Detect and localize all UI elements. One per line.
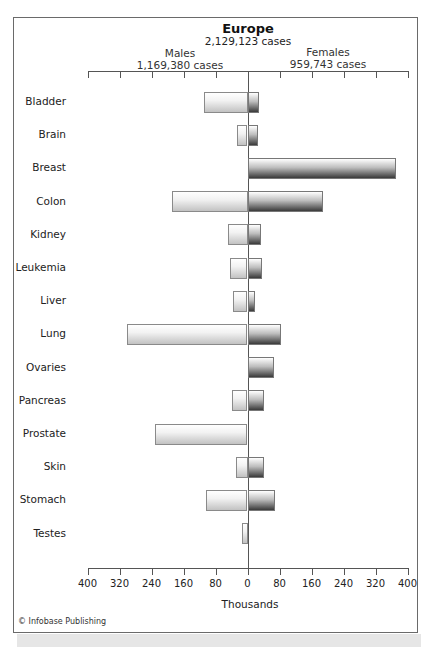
top-axis-tick	[152, 71, 153, 78]
bottom-axis-tick	[280, 568, 281, 575]
top-axis-tick	[88, 71, 89, 78]
bottom-axis-tick	[344, 568, 345, 575]
male-bar-testes	[242, 523, 248, 544]
top-axis-tick	[376, 71, 377, 78]
x-axis-label: Thousands	[200, 598, 300, 610]
male-bar-colon	[172, 191, 248, 212]
top-axis-tick	[408, 71, 409, 78]
category-label-skin: Skin	[44, 460, 66, 472]
female-bar-breast	[248, 158, 397, 179]
females-total: 959,743 cases	[268, 58, 388, 70]
bottom-axis-tick	[88, 568, 89, 575]
males-label: Males	[120, 47, 240, 59]
female-bar-colon	[248, 191, 323, 212]
category-label-testes: Testes	[33, 527, 66, 539]
male-bar-kidney	[228, 224, 248, 245]
female-bar-skin	[248, 457, 264, 478]
males-legend: Males 1,169,380 cases	[120, 47, 240, 71]
bottom-axis-tick	[184, 568, 185, 575]
x-tick-label: 240	[137, 578, 167, 589]
category-label-lung: Lung	[40, 327, 66, 339]
x-tick-label: 320	[361, 578, 391, 589]
male-bar-prostate	[155, 424, 248, 445]
males-total: 1,169,380 cases	[120, 59, 240, 71]
category-label-leukemia: Leukemia	[15, 261, 66, 273]
x-tick-label: 400	[393, 578, 423, 589]
top-axis-tick	[312, 71, 313, 78]
x-tick-label: 160	[169, 578, 199, 589]
bottom-axis-tick	[376, 568, 377, 575]
male-bar-bladder	[204, 92, 248, 113]
x-tick-label: 80	[201, 578, 231, 589]
top-axis-tick	[120, 71, 121, 78]
x-tick-label: 240	[329, 578, 359, 589]
bottom-axis-tick	[312, 568, 313, 575]
females-label: Females	[268, 46, 388, 58]
category-label-pancreas: Pancreas	[19, 394, 66, 406]
category-label-liver: Liver	[40, 294, 66, 306]
copyright-credit: © Infobase Publishing	[18, 617, 106, 626]
x-tick-label: 80	[265, 578, 295, 589]
female-bar-bladder	[248, 92, 259, 113]
page-bottom-strip	[17, 634, 421, 647]
x-tick-label: 160	[297, 578, 327, 589]
bottom-axis-tick	[216, 568, 217, 575]
bottom-axis-tick	[152, 568, 153, 575]
male-bar-skin	[236, 457, 248, 478]
top-axis-tick	[344, 71, 345, 78]
x-tick-label: 400	[73, 578, 103, 589]
category-label-stomach: Stomach	[20, 493, 66, 505]
x-tick-label: 0	[233, 578, 263, 589]
female-bar-ovaries	[248, 357, 274, 378]
category-label-prostate: Prostate	[23, 427, 66, 439]
male-bar-brain	[237, 125, 248, 146]
male-bar-stomach	[206, 490, 248, 511]
male-bar-liver	[233, 291, 248, 312]
female-bar-pancreas	[248, 390, 264, 411]
category-label-brain: Brain	[38, 128, 66, 140]
male-bar-lung	[127, 324, 248, 345]
chart-title: Europe	[148, 21, 348, 36]
top-axis-tick	[216, 71, 217, 78]
females-legend: Females 959,743 cases	[268, 46, 388, 70]
bottom-axis-tick	[120, 568, 121, 575]
category-label-kidney: Kidney	[30, 228, 66, 240]
top-axis-tick	[280, 71, 281, 78]
x-tick-label: 320	[105, 578, 135, 589]
top-axis-tick	[184, 71, 185, 78]
category-label-breast: Breast	[32, 161, 66, 173]
male-bar-leukemia	[230, 258, 247, 279]
bottom-axis-tick	[408, 568, 409, 575]
female-bar-brain	[248, 125, 258, 146]
female-bar-liver	[248, 291, 255, 312]
female-bar-lung	[248, 324, 281, 345]
male-bar-pancreas	[232, 390, 247, 411]
bottom-axis-tick	[248, 568, 249, 575]
female-bar-stomach	[248, 490, 276, 511]
category-label-bladder: Bladder	[25, 95, 66, 107]
female-bar-kidney	[248, 224, 261, 245]
category-label-ovaries: Ovaries	[26, 361, 66, 373]
female-bar-leukemia	[248, 258, 262, 279]
top-axis-tick	[248, 71, 249, 78]
category-label-colon: Colon	[36, 195, 66, 207]
